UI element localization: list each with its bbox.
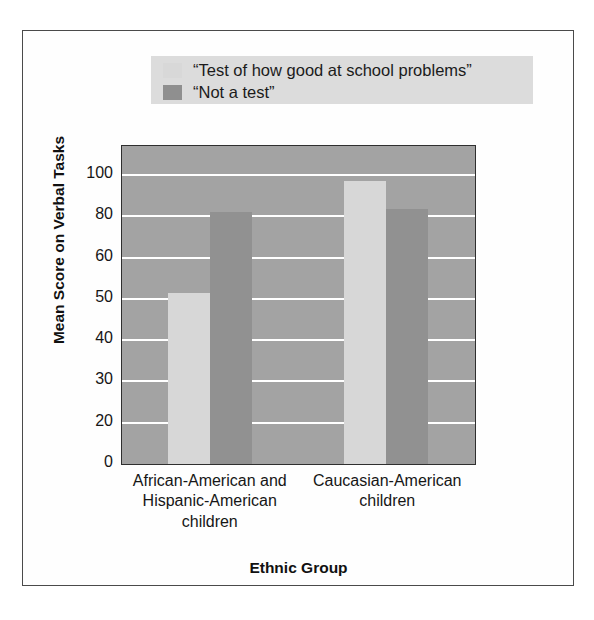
- y-tick-label-40: 40: [95, 330, 113, 346]
- x-category-label-0-line-1: Hispanic-American: [123, 491, 297, 511]
- legend-swatch-dark-icon: [163, 85, 182, 100]
- x-category-label-0: African-American andHispanic-Americanchi…: [121, 471, 299, 532]
- legend-item-not-a-test: “Not a test”: [163, 82, 533, 103]
- y-axis-tick-labels: 1008060504030200: [73, 145, 117, 465]
- bar-group-0-series-0: [168, 293, 210, 464]
- bar-group-1-series-0: [344, 181, 386, 464]
- plot-area: [121, 145, 476, 465]
- bar-group-0-series-1: [210, 212, 252, 464]
- y-axis-title: Mean Score on Verbal Tasks: [50, 120, 68, 360]
- plot-inner: [122, 146, 475, 464]
- gridline-100: [122, 174, 475, 176]
- chart-legend: “Test of how good at school problems” “N…: [151, 56, 533, 104]
- y-tick-label-50: 50: [95, 289, 113, 305]
- y-tick-label-80: 80: [95, 206, 113, 222]
- x-axis-category-labels: African-American andHispanic-Americanchi…: [121, 471, 476, 532]
- y-tick-label-0: 0: [104, 454, 113, 470]
- legend-label-series-1: “Test of how good at school problems”: [193, 62, 472, 79]
- y-tick-label-60: 60: [95, 248, 113, 264]
- legend-item-test-of-how-good: “Test of how good at school problems”: [163, 60, 533, 81]
- x-axis-title: Ethnic Group: [121, 559, 476, 577]
- legend-label-series-2: “Not a test”: [193, 84, 275, 101]
- x-category-label-1-line-1: children: [301, 491, 475, 511]
- figure-frame: “Test of how good at school problems” “N…: [22, 30, 574, 586]
- x-category-label-1-line-0: Caucasian-American: [301, 471, 475, 491]
- legend-swatch-light-icon: [163, 63, 182, 78]
- x-category-label-1: Caucasian-Americanchildren: [299, 471, 477, 532]
- bar-group-1-series-1: [386, 209, 428, 464]
- y-tick-label-30: 30: [95, 371, 113, 387]
- x-category-label-0-line-0: African-American and: [123, 471, 297, 491]
- y-tick-label-20: 20: [95, 413, 113, 429]
- y-tick-label-100: 100: [86, 165, 113, 181]
- x-category-label-0-line-2: children: [123, 512, 297, 532]
